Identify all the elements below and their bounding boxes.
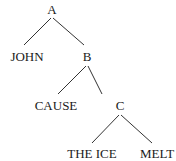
node-the-ice: THE ICE — [67, 146, 117, 161]
edge-c-melt — [121, 115, 152, 143]
edge-c-the-ice — [92, 115, 119, 143]
node-cause: CAUSE — [35, 98, 78, 113]
edge-b-c — [88, 66, 102, 94]
node-melt: MELT — [140, 146, 174, 161]
node-john: JOHN — [10, 49, 44, 64]
edge-b-cause — [58, 66, 86, 94]
node-c: C — [116, 98, 125, 113]
node-b: B — [83, 49, 92, 64]
edge-a-john — [24, 18, 51, 45]
syntax-tree-diagram: A JOHN B CAUSE C THE ICE MELT — [0, 0, 176, 161]
node-a: A — [47, 2, 57, 17]
edge-a-b — [53, 18, 84, 45]
